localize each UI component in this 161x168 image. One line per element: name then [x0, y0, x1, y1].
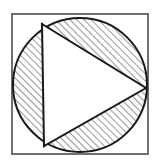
- triangle-vertex-bottom-left: [43, 145, 45, 147]
- triangle-vertex-right: [145, 87, 147, 89]
- geometry-diagram-svg: [0, 0, 161, 168]
- geometry-figure: Circle inscribed in square with inscribe…: [0, 0, 161, 168]
- triangle-vertex-top-left: [41, 23, 43, 25]
